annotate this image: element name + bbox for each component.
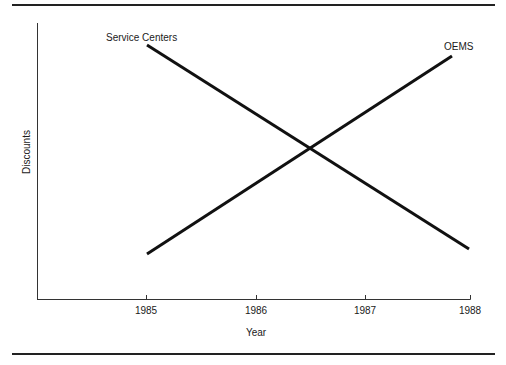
series-line-oems — [147, 56, 452, 254]
series-label-service-centers: Service Centers — [106, 32, 177, 43]
x-tick-label-1987: 1987 — [354, 305, 377, 316]
bottom-rule — [12, 353, 495, 355]
x-tick-label-1985: 1985 — [135, 305, 158, 316]
y-axis-title: Discounts — [21, 130, 32, 174]
series-label-oems: OEMS — [444, 41, 474, 52]
line-chart: 1985 1986 1987 1988 Year Discounts Servi… — [0, 0, 506, 365]
x-tick-label-1988: 1988 — [459, 305, 482, 316]
x-tick-label-1986: 1986 — [245, 305, 268, 316]
x-axis-title: Year — [246, 327, 267, 338]
